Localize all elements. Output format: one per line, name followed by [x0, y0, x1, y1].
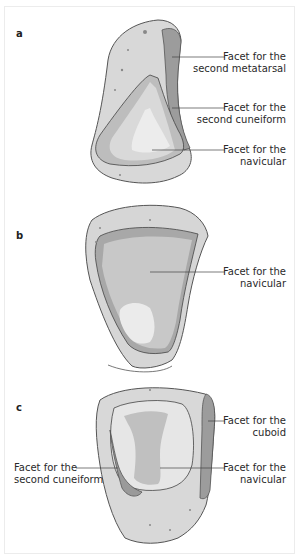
panel-letter-b: b	[16, 230, 23, 241]
label-cuboid-facet: Facet for the cuboid	[223, 415, 286, 439]
label-second-metatarsal-facet: Facet for the second metatarsal	[193, 51, 286, 75]
label-navicular-facet-a: Facet for the navicular	[223, 144, 286, 168]
label-navicular-facet-c: Facet for the navicular	[223, 462, 286, 486]
label-second-cuneiform-facet-c: Facet for the second cuneiform	[14, 462, 103, 486]
label-second-cuneiform-facet-a: Facet for the second cuneiform	[197, 102, 286, 126]
label-navicular-facet-b: Facet for the navicular	[223, 266, 286, 290]
panel-a: a Facet for the second metatarsal Facet …	[0, 0, 303, 190]
panel-c: c Facet for the cuboid Facet for the sec…	[0, 380, 303, 560]
panel-letter-c: c	[16, 402, 22, 413]
panel-letter-a: a	[16, 28, 23, 39]
panel-b: b Facet for the navicular	[0, 190, 303, 380]
